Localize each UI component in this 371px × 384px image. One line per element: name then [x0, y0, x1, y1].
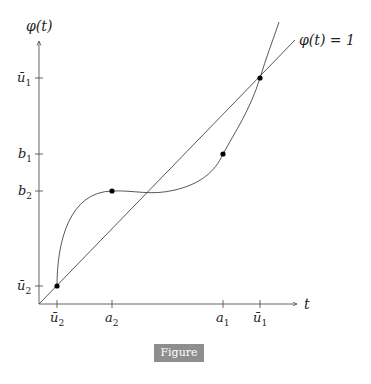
point-u1	[257, 75, 262, 80]
y-tick-label-b2: b2	[18, 184, 32, 201]
diagonal-line	[39, 40, 295, 304]
marked-points	[54, 75, 262, 288]
x-tick-label-u2: ū2	[50, 311, 64, 328]
figure-caption: Figure 6.3	[154, 344, 204, 362]
diagonal-label: φ(t) = 1	[299, 33, 355, 47]
y-tick-label-u1: ū1	[17, 71, 31, 88]
y-tick-label-u2: ū2	[17, 279, 31, 296]
point-a1-b1	[220, 151, 225, 156]
x-tick-label-a1: a1	[216, 311, 230, 328]
y-tick-label-b1: b1	[18, 147, 32, 164]
point-a2-b2	[109, 188, 114, 193]
x-tick-label-u1: ū1	[253, 311, 267, 328]
point-u2	[54, 283, 59, 288]
y-axis-label: φ(t)	[26, 19, 52, 33]
x-axis-label: t	[304, 297, 310, 311]
phi-curve	[57, 22, 279, 286]
x-tick-label-a2: a2	[105, 311, 119, 328]
